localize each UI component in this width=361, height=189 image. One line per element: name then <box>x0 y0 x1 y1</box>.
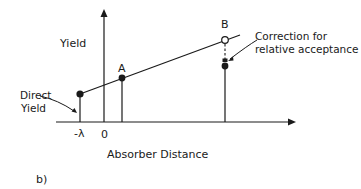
x-axis-arrow-icon <box>288 119 296 126</box>
panel-label: b) <box>36 173 47 186</box>
point-a <box>119 75 126 82</box>
point-b-label: B <box>221 18 229 31</box>
direct-yield-label-2: Yield <box>20 102 46 114</box>
x-tick-neg-lambda: -λ <box>74 127 85 140</box>
correction-leader-arrow-icon <box>228 57 234 62</box>
x-axis-label: Absorber Distance <box>107 148 209 161</box>
annotation-line-2: relative acceptance <box>255 43 359 55</box>
correction-leader <box>230 40 257 59</box>
x-tick-zero: 0 <box>101 128 108 141</box>
yield-diagram: Yield A B Correction for relative accept… <box>0 0 361 189</box>
correction-marker <box>223 59 228 63</box>
direct-yield-label-1: Direct <box>20 89 51 101</box>
point-a-label: A <box>118 62 126 75</box>
direct-yield-leader-arrow-icon <box>72 108 78 113</box>
point-b-measured <box>222 63 229 70</box>
y-axis-label: Yield <box>59 37 86 50</box>
annotation-line-1: Correction for <box>255 30 328 42</box>
direct-yield-point <box>76 90 83 97</box>
y-axis-arrow-icon <box>101 9 108 17</box>
point-b-corrected <box>222 37 229 44</box>
